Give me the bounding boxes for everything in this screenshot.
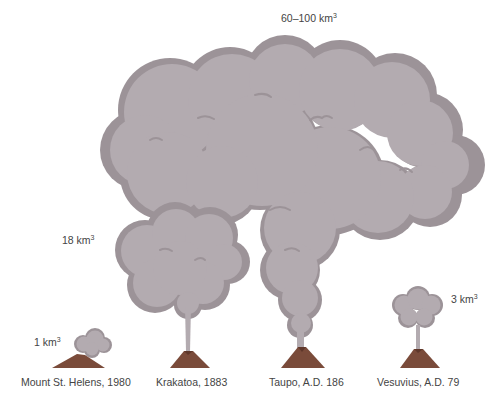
volume-exponent: 3 xyxy=(474,293,478,300)
krakatoa-name-label: Krakatoa, 1883 xyxy=(156,376,227,388)
krakatoa-ash-cloud xyxy=(115,202,250,319)
volume-exponent: 3 xyxy=(333,12,337,19)
eruption-comparison-diagram: .co { fill: #9c9398; } .cf { fill: #b3ab… xyxy=(0,0,498,397)
krakatoa-volcano xyxy=(170,305,210,368)
st-helens-name-label: Mount St. Helens, 1980 xyxy=(21,376,131,388)
vesuvius-volume-label: 3 km3 xyxy=(451,293,478,305)
vesuvius-name-label: Vesuvius, A.D. 79 xyxy=(377,376,459,388)
taupo-volcano xyxy=(281,325,325,368)
volume-exponent: 3 xyxy=(57,336,61,343)
st-helens-volume-label: 1 km3 xyxy=(34,336,61,348)
volume-value: 18 km xyxy=(62,234,91,246)
krakatoa-volume-label: 18 km3 xyxy=(62,234,95,246)
vesuvius-volcano xyxy=(400,325,440,368)
st-helens-ash-cloud xyxy=(74,328,112,358)
vesuvius-ash-cloud xyxy=(392,286,443,328)
taupo-volume-label: 60–100 km3 xyxy=(281,12,337,24)
volume-value: 60–100 km xyxy=(281,12,333,24)
volume-value: 3 km xyxy=(451,293,474,305)
taupo-name-label: Taupo, A.D. 186 xyxy=(269,376,344,388)
volume-value: 1 km xyxy=(34,336,57,348)
volume-exponent: 3 xyxy=(91,234,95,241)
